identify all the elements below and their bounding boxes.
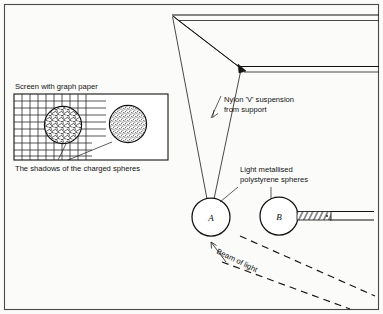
shadow-right (109, 105, 147, 143)
rod-marker-dot (326, 215, 328, 217)
shadow-left (44, 106, 82, 144)
sphere-b: B (260, 197, 298, 235)
sphere-a-label: A (207, 213, 214, 223)
sphere-a: A (192, 198, 230, 236)
figure-root: A B Beam of light Nylon 'V' suspens (0, 0, 383, 314)
nylon-label-line2: from support (224, 105, 268, 114)
diagram-canvas: A B Beam of light Nylon 'V' suspens (0, 0, 383, 314)
spheres-label-line1: Light metallised (240, 165, 293, 174)
rod-hatched-section (297, 212, 331, 221)
spheres-label-line2: polystyrene spheres (240, 175, 308, 184)
nylon-label-line1: Nylon 'V' suspension (224, 95, 294, 104)
screen-inset: Screen with graph paper (14, 82, 168, 173)
inset-title: Screen with graph paper (15, 82, 98, 91)
inset-caption: The shadows of the charged spheres (15, 164, 140, 173)
sphere-b-label: B (276, 212, 282, 222)
